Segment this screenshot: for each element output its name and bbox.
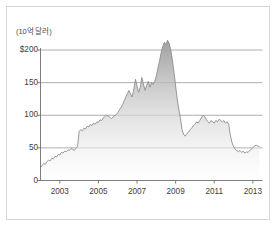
x-tick-label: 2009 [167,187,185,196]
x-tick-label: 2007 [128,187,146,196]
x-tick-label: 2011 [205,187,223,196]
x-tick-label: 2005 [89,187,107,196]
x-tick-label: 2013 [244,187,262,196]
x-tick-label: 2003 [51,187,69,196]
chart-figure: (10억 달러) $200150100500 20032005200720092… [0,0,277,227]
x-axis-labels: 200320052007200920112013 [0,0,277,227]
